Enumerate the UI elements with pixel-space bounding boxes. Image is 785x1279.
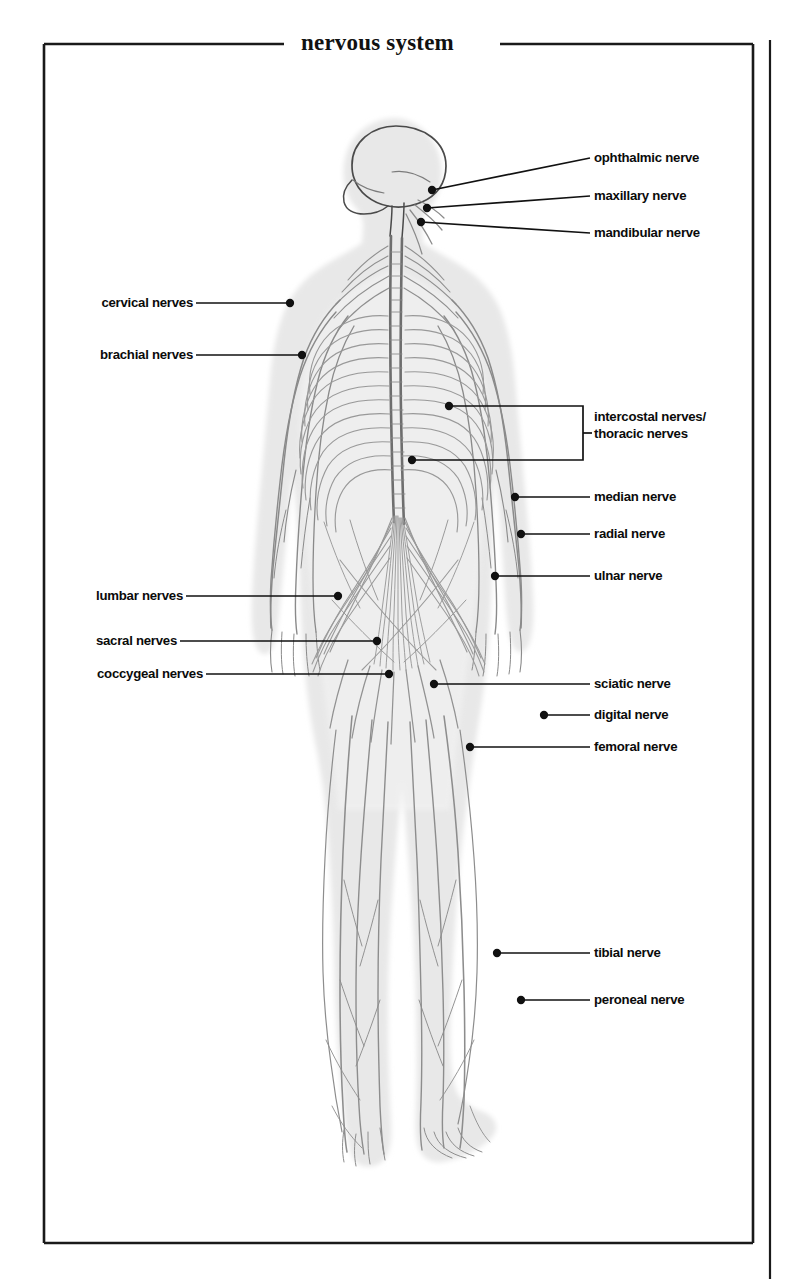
label-femoral-nerve: femoral nerve: [594, 739, 677, 755]
label-brachial-nerves: brachial nerves: [0, 347, 193, 363]
label-tibial-nerve: tibial nerve: [594, 945, 661, 961]
figure-page: nervous system ophthalmic nerve maxillar…: [0, 0, 785, 1279]
label-sacral-nerves: sacral nerves: [0, 633, 177, 649]
label-cervical-nerves: cervical nerves: [0, 295, 193, 311]
label-ophthalmic-nerve: ophthalmic nerve: [594, 150, 699, 166]
label-intercostal-line-2: thoracic nerves: [594, 426, 706, 443]
label-sciatic-nerve: sciatic nerve: [594, 676, 671, 692]
label-coccygeal-nerves: coccygeal nerves: [0, 666, 203, 682]
label-maxillary-nerve: maxillary nerve: [594, 188, 686, 204]
label-lumbar-nerves: lumbar nerves: [0, 588, 183, 604]
label-mandibular-nerve: mandibular nerve: [594, 225, 700, 241]
label-median-nerve: median nerve: [594, 489, 676, 505]
label-intercostal-line-1: intercostal nerves/: [594, 409, 706, 426]
label-radial-nerve: radial nerve: [594, 526, 665, 542]
label-intercostal-thoracic-nerves: intercostal nerves/ thoracic nerves: [594, 409, 706, 442]
label-peroneal-nerve: peroneal nerve: [594, 992, 684, 1008]
label-digital-nerve: digital nerve: [594, 707, 668, 723]
page-title: nervous system: [292, 30, 463, 56]
label-ulnar-nerve: ulnar nerve: [594, 568, 662, 584]
